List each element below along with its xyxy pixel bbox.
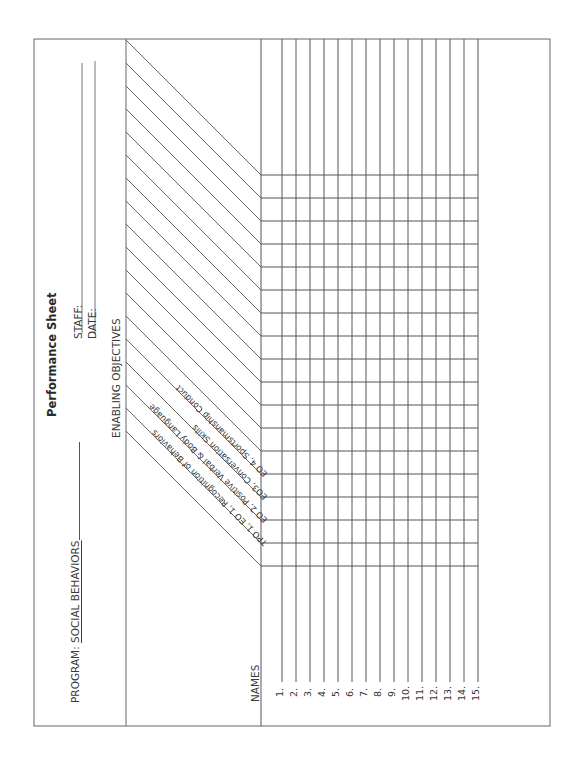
row-number-4: 4. [316,688,327,697]
row-number-2: 2. [288,688,299,697]
performance-sheet-page: Performance Sheet PROGRAM: SOCIAL BEHAVI… [0,0,579,764]
objective-diagonal [126,40,261,175]
objective-diagonal [126,201,261,336]
row-number-7: 7. [358,688,369,697]
objective-diagonal [126,63,261,198]
row-number-15: 15. [470,686,481,701]
program-value[interactable]: SOCIAL BEHAVIORS [69,540,81,642]
staff-label: STAFF: [72,305,84,339]
form-rules [0,0,579,764]
grid-vertical-lines [282,39,478,682]
objective-diagonal [126,178,261,313]
objective-diagonals [126,40,261,566]
row-number-8: 8. [372,688,383,697]
objective-diagonal [126,132,261,267]
grid-horizontal-lines [261,175,478,566]
objective-diagonal [126,270,261,405]
program-field: PROGRAM: SOCIAL BEHAVIORS [69,442,81,703]
row-number-14: 14. [456,686,467,701]
objective-diagonal [126,247,261,382]
date-label: DATE: [86,308,98,339]
row-number-3: 3. [302,688,313,697]
program-label: PROGRAM: [69,646,81,703]
row-number-1: 1. [274,688,285,697]
objective-diagonal [126,155,261,290]
enabling-objectives-heading: ENABLING OBJECTIVES [110,318,122,438]
row-number-6: 6. [344,688,355,697]
sheet-title: Performance Sheet [45,292,59,417]
row-number-11: 11. [414,686,425,701]
program-underline [69,442,80,540]
names-heading: NAMES [249,665,261,702]
row-number-5: 5. [330,688,341,697]
objective-diagonal [126,109,261,244]
objective-diagonal [126,86,261,221]
row-number-13: 13. [442,686,453,701]
row-number-12: 12. [428,686,439,701]
row-number-9: 9. [386,688,397,697]
objective-diagonal [126,224,261,359]
row-number-10: 10. [400,686,411,701]
